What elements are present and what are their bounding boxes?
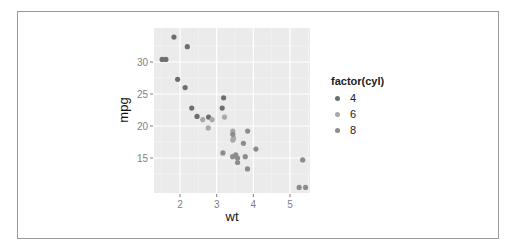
data-point-cyl-4 <box>160 57 165 62</box>
legend-dot-icon <box>335 96 340 101</box>
x-axis-label: wt <box>225 209 239 224</box>
plot-panel <box>154 28 310 193</box>
legend-item-8: 8 <box>331 122 384 138</box>
data-point-cyl-8 <box>230 132 235 137</box>
legend-dot-icon <box>335 128 340 133</box>
data-point-cyl-4 <box>221 95 226 100</box>
legend-key <box>331 122 343 138</box>
data-point-cyl-4 <box>220 105 225 110</box>
y-axis-label: mpg <box>116 97 131 122</box>
data-point-cyl-8 <box>235 160 240 165</box>
data-point-cyl-8 <box>300 157 305 162</box>
y-axis-ticks: 15202530 <box>137 57 153 164</box>
data-point-cyl-8 <box>230 154 235 159</box>
data-point-cyl-4 <box>189 105 194 110</box>
data-point-cyl-8 <box>220 150 225 155</box>
data-point-cyl-6 <box>200 117 205 122</box>
data-point-cyl-4 <box>194 114 199 119</box>
x-tick-label: 2 <box>177 199 183 210</box>
legend-label: 6 <box>350 108 356 120</box>
scatter-plot: 15202530 2345 wt mpg <box>0 0 511 247</box>
legend-title: factor(cyl) <box>331 75 384 87</box>
legend-dot-icon <box>335 112 340 117</box>
data-point-cyl-8 <box>245 129 250 134</box>
data-point-cyl-4 <box>175 77 180 82</box>
x-tick-label: 5 <box>287 199 293 210</box>
data-point-cyl-8 <box>253 146 258 151</box>
legend-label: 8 <box>350 124 356 136</box>
data-point-cyl-6 <box>209 117 214 122</box>
legend: factor(cyl) 468 <box>331 75 384 138</box>
legend-item-6: 6 <box>331 106 384 122</box>
legend-key <box>331 106 343 122</box>
legend-label: 4 <box>350 92 356 104</box>
data-point-cyl-8 <box>243 154 248 159</box>
y-tick-label: 30 <box>137 57 149 68</box>
data-point-cyl-4 <box>171 34 176 39</box>
data-point-cyl-6 <box>206 125 211 130</box>
y-tick-label: 15 <box>137 153 149 164</box>
x-axis-ticks: 2345 <box>177 194 293 210</box>
y-tick-label: 20 <box>137 121 149 132</box>
y-tick-label: 25 <box>137 89 149 100</box>
data-point-cyl-8 <box>297 185 302 190</box>
data-point-cyl-6 <box>222 114 227 119</box>
data-point-cyl-8 <box>245 166 250 171</box>
data-point-cyl-4 <box>183 85 188 90</box>
data-point-cyl-8 <box>235 155 240 160</box>
x-tick-label: 4 <box>251 199 257 210</box>
data-point-cyl-8 <box>303 185 308 190</box>
data-point-cyl-4 <box>185 44 190 49</box>
legend-item-4: 4 <box>331 90 384 106</box>
x-tick-label: 3 <box>214 199 220 210</box>
data-point-cyl-6 <box>230 137 235 142</box>
data-point-cyl-8 <box>241 141 246 146</box>
legend-key <box>331 90 343 106</box>
